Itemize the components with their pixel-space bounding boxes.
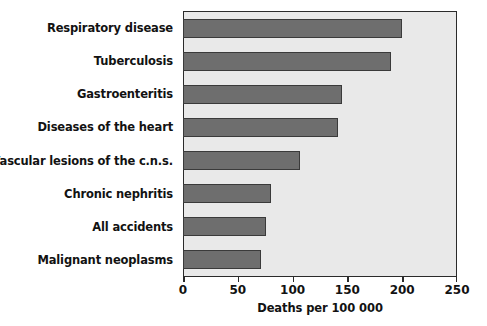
bar-row bbox=[184, 45, 456, 78]
bar-row bbox=[184, 177, 456, 210]
x-tick-mark bbox=[402, 277, 404, 282]
category-label-gastroenteritis: Gastroenteritis bbox=[77, 87, 173, 101]
category-row: Tuberculosis bbox=[0, 44, 178, 77]
x-tick-label: 100 bbox=[280, 283, 305, 297]
category-row: Diseases of the heart bbox=[0, 111, 178, 144]
x-tick-label: 150 bbox=[335, 283, 360, 297]
category-row: Gastroenteritis bbox=[0, 78, 178, 111]
category-label-vascular-lesions: Vascular lesions of the c.n.s. bbox=[0, 154, 173, 168]
bar-row bbox=[184, 111, 456, 144]
x-tick-label: 0 bbox=[179, 283, 187, 297]
category-label-respiratory-disease: Respiratory disease bbox=[47, 21, 173, 35]
x-tick-label: 250 bbox=[444, 283, 469, 297]
category-label-tuberculosis: Tuberculosis bbox=[94, 54, 173, 68]
bar-vascular-lesions bbox=[183, 151, 300, 170]
bar-row bbox=[184, 243, 456, 276]
category-row: All accidents bbox=[0, 211, 178, 244]
bar-all-accidents bbox=[183, 217, 266, 236]
bar-malignant-neoplasms bbox=[183, 250, 261, 269]
category-row: Respiratory disease bbox=[0, 11, 178, 44]
category-row: Malignant neoplasms bbox=[0, 244, 178, 277]
bar-row bbox=[184, 78, 456, 111]
x-tick-mark bbox=[293, 277, 295, 282]
x-axis-title: Deaths per 100 000 bbox=[183, 301, 457, 315]
category-label-all-accidents: All accidents bbox=[92, 220, 173, 234]
category-row: Vascular lesions of the c.n.s. bbox=[0, 144, 178, 177]
category-label-chronic-nephritis: Chronic nephritis bbox=[64, 187, 173, 201]
x-tick-mark bbox=[238, 277, 240, 282]
plot-area bbox=[183, 11, 457, 277]
bar-respiratory-disease bbox=[183, 19, 402, 38]
bar-chronic-nephritis bbox=[183, 184, 271, 203]
bar-row bbox=[184, 210, 456, 243]
x-tick-mark bbox=[347, 277, 349, 282]
bar-gastroenteritis bbox=[183, 85, 342, 104]
category-axis: Respiratory disease Tuberculosis Gastroe… bbox=[0, 11, 178, 277]
x-tick-label: 200 bbox=[390, 283, 415, 297]
bar-row bbox=[184, 144, 456, 177]
category-label-diseases-of-the-heart: Diseases of the heart bbox=[37, 120, 173, 134]
x-tick-mark bbox=[456, 277, 458, 282]
x-axis-tick-labels: 050100150200250 bbox=[183, 283, 457, 299]
category-label-malignant-neoplasms: Malignant neoplasms bbox=[37, 253, 173, 267]
x-tick-label: 50 bbox=[229, 283, 246, 297]
bars-layer bbox=[184, 12, 456, 276]
bar-chart: Respiratory disease Tuberculosis Gastroe… bbox=[0, 0, 487, 326]
bar-diseases-of-the-heart bbox=[183, 118, 338, 137]
x-tick-mark bbox=[183, 277, 185, 282]
bar-tuberculosis bbox=[183, 52, 391, 71]
bar-row bbox=[184, 12, 456, 45]
category-row: Chronic nephritis bbox=[0, 177, 178, 210]
